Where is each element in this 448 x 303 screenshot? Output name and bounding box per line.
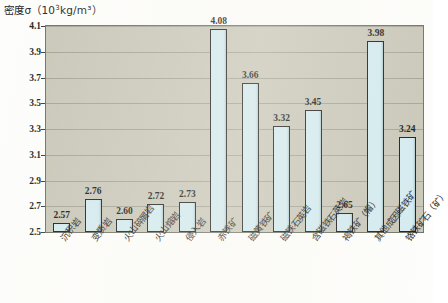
bar-value-label: 3.66 (230, 70, 270, 80)
y-axis-tick-mark (41, 103, 45, 104)
bar-value-label: 2.76 (73, 186, 113, 196)
y-axis-tick-label: 3.3 (7, 124, 41, 134)
y-axis-tick-mark (41, 206, 45, 207)
y-axis-tick-mark (41, 78, 45, 79)
y-axis-tick-mark (41, 155, 45, 156)
y-axis-tick-label: 3.5 (7, 98, 41, 108)
y-axis-tick-mark (41, 129, 45, 130)
bar-value-label: 4.08 (199, 16, 239, 26)
y-axis-tick-label: 2.9 (7, 176, 41, 186)
y-axis-tick-mark (41, 232, 45, 233)
y-axis-tick-label: 3.9 (7, 47, 41, 57)
bar-value-label: 3.98 (356, 28, 396, 38)
bar (210, 29, 227, 232)
y-axis-tick-mark (41, 26, 45, 27)
bar-value-label: 3.45 (293, 97, 333, 107)
y-axis-title: 密度σ（103kg/m³） (4, 2, 102, 17)
y-axis-tick-label: 2.5 (7, 227, 41, 237)
y-axis-tick-mark (41, 181, 45, 182)
bar (242, 83, 259, 232)
bar-value-label: 3.32 (262, 113, 302, 123)
bar-value-label: 3.24 (387, 124, 427, 134)
bar-value-label: 2.73 (167, 189, 207, 199)
y-axis-tick-label: 3.1 (7, 150, 41, 160)
y-axis-tick-label: 2.7 (7, 201, 41, 211)
y-axis-title-prefix: 密度σ（10 (4, 4, 55, 16)
y-axis-tick-label: 3.7 (7, 73, 41, 83)
gridline (46, 26, 423, 27)
y-axis-tick-mark (41, 52, 45, 53)
y-axis-title-suffix: kg/m³） (60, 4, 102, 16)
y-axis-tick-label: 4.1 (7, 21, 41, 31)
bar-value-label: 2.65 (324, 200, 364, 210)
